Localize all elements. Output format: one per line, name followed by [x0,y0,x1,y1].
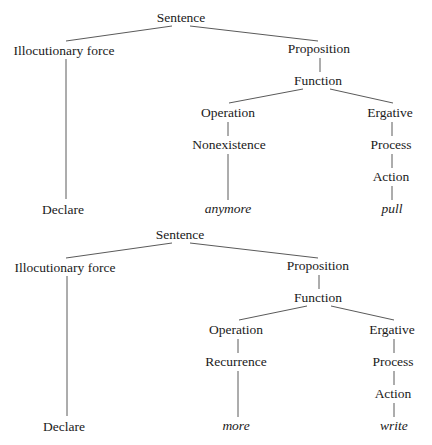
leaf-anymore: anymore [205,201,252,216]
node-action: Action [373,169,410,184]
node-operation: Operation [201,105,255,120]
node-sentence: Sentence [157,10,206,25]
node-illocutionary-force: Illocutionary force [14,43,115,58]
node-action: Action [375,386,412,401]
node-nonexistence: Nonexistence [192,137,265,152]
edge-sentence-proposition [190,243,318,258]
edge-function-operation [229,89,303,103]
node-proposition: Proposition [287,258,350,273]
node-operation: Operation [209,322,263,337]
tree-2: Sentence Illocutionary force Proposition… [15,227,415,434]
leaf-more: more [222,418,249,433]
node-ergative: Ergative [369,322,414,337]
edge-function-operation [239,306,307,320]
leaf-pull: pull [380,201,402,216]
leaf-write: write [380,418,408,433]
node-process: Process [370,137,411,152]
node-recurrence: Recurrence [205,354,266,369]
tree-1: Sentence Illocutionary force Proposition… [14,10,413,217]
node-ergative: Ergative [367,105,412,120]
tree-diagrams: Sentence Illocutionary force Proposition… [0,0,432,445]
node-declare: Declare [42,202,84,217]
edge-function-ergative [331,306,394,320]
node-illocutionary-force: Illocutionary force [15,260,116,275]
node-process: Process [372,354,413,369]
edge-sentence-illocutionary [66,243,172,258]
edge-sentence-proposition [190,26,318,41]
edge-sentence-illocutionary [66,26,172,41]
node-sentence: Sentence [156,227,205,242]
node-function: Function [294,290,342,305]
node-proposition: Proposition [288,41,351,56]
edge-function-ergative [330,89,393,103]
node-declare: Declare [43,419,85,434]
node-function: Function [294,73,342,88]
